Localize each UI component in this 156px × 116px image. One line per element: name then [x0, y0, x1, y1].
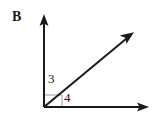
vertical-component-label: 3 [48, 72, 55, 85]
vector-diagram-canvas [0, 0, 156, 116]
vector-diagram-panel: B 3 4 [0, 0, 156, 116]
vector-ray-line [44, 39, 127, 108]
horizontal-component-label: 4 [64, 91, 71, 104]
panel-label: B [12, 10, 21, 24]
